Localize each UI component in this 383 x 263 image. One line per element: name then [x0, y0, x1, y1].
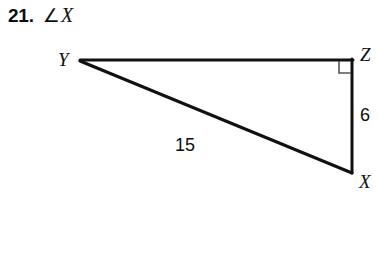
geometry-problem-figure: 21. ∠X Y Z X 6 15 [0, 0, 383, 263]
vertex-label-z: Z [360, 45, 371, 64]
right-angle-marker-icon [339, 61, 351, 73]
side-yx-hypotenuse [80, 61, 352, 173]
triangle-diagram [0, 0, 383, 263]
side-length-yx: 15 [175, 136, 195, 154]
vertex-label-y: Y [58, 50, 69, 69]
side-length-zx: 6 [360, 106, 370, 124]
vertex-label-x: X [359, 172, 371, 191]
